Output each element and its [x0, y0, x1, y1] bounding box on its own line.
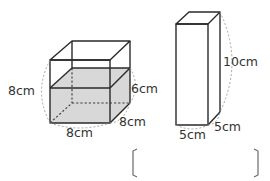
- label-prism-depth: 5cm: [214, 119, 241, 134]
- label-cube-depth: 8cm: [119, 114, 146, 129]
- prism-front-face: [176, 24, 208, 125]
- left-bracket: [133, 149, 137, 177]
- cube-top-face: [50, 41, 130, 60]
- label-water-depth: 6cm: [131, 81, 158, 96]
- dim-arc-height: [42, 60, 51, 123]
- label-cube-width: 8cm: [66, 125, 93, 140]
- label-prism-width: 5cm: [179, 127, 206, 142]
- prism-top-face: [176, 12, 220, 24]
- water-front-face: [50, 88, 110, 123]
- answer-input-area[interactable]: [140, 149, 252, 177]
- answer-box[interactable]: [133, 149, 258, 177]
- figure-canvas: 8cm 6cm 8cm 8cm 10cm 5cm 5cm: [0, 0, 270, 181]
- cube-container: 8cm 6cm 8cm 8cm: [8, 41, 158, 140]
- label-prism-height: 10cm: [223, 54, 258, 69]
- label-cube-height: 8cm: [8, 83, 35, 98]
- rectangular-prism: 10cm 5cm 5cm: [176, 12, 258, 142]
- right-bracket: [254, 149, 258, 177]
